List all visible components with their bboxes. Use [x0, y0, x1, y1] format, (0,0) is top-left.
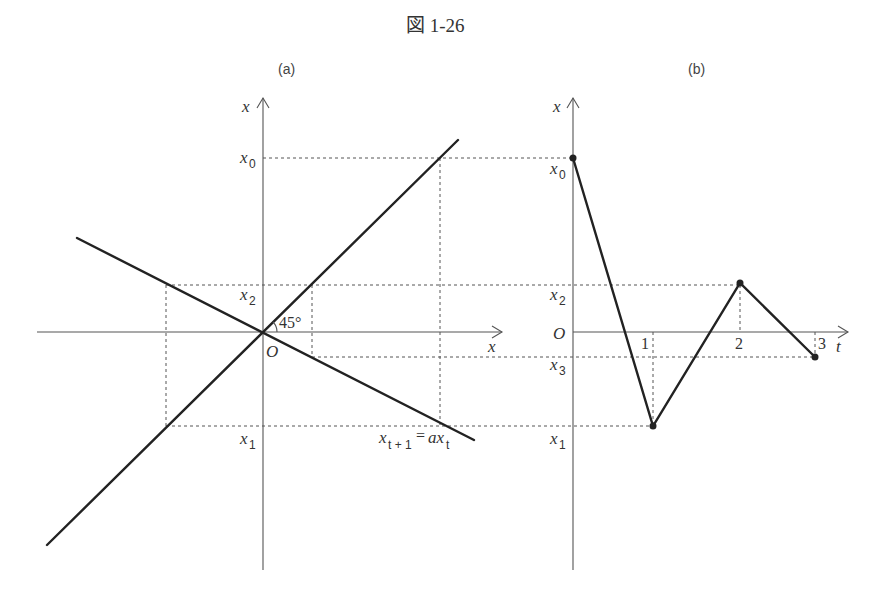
panel-b-time-axis-label: t: [836, 337, 842, 356]
point-x3: [812, 354, 819, 361]
svg-text:1: 1: [249, 438, 256, 452]
panel-b: (b) x t O 1 2 3 x 0 x 2 x 3: [549, 61, 848, 570]
svg-text:x: x: [549, 285, 558, 304]
angle-arc: [273, 322, 277, 332]
svg-text:x: x: [239, 148, 248, 167]
point-x0: [570, 155, 577, 162]
map-line-label: x t + 1 = ax t: [378, 427, 450, 452]
figure-canvas: 図 1-26 (a) x x O 45° x 0: [0, 0, 881, 609]
label-x2-b: x 2: [549, 285, 566, 308]
svg-text:t + 1: t + 1: [388, 438, 412, 452]
angle-label: 45°: [279, 314, 301, 331]
forty-five-degree-line: [47, 140, 458, 545]
map-line: [77, 238, 474, 440]
label-x1-a: x 1: [239, 429, 256, 452]
panel-a-horizontal-axis-label: x: [487, 337, 496, 356]
t-tick-3: 3: [818, 335, 826, 352]
panel-a-origin-label: O: [266, 342, 278, 361]
svg-text:x: x: [549, 355, 558, 374]
svg-text:2: 2: [559, 294, 566, 308]
svg-text:0: 0: [559, 168, 566, 182]
figure-title: 図 1-26: [406, 15, 465, 36]
svg-text:1: 1: [559, 438, 566, 452]
point-x2: [737, 280, 744, 287]
svg-text:=: =: [412, 427, 429, 444]
svg-text:x: x: [239, 429, 248, 448]
panel-b-vertical-axis-label: x: [552, 97, 561, 116]
label-x0-b: x 0: [549, 159, 566, 182]
svg-text:t: t: [446, 438, 450, 452]
svg-text:x: x: [239, 285, 248, 304]
svg-text:x: x: [549, 429, 558, 448]
panel-a-label: (a): [278, 61, 295, 77]
svg-text:x: x: [378, 428, 387, 447]
svg-text:3: 3: [559, 364, 566, 378]
label-x1-b: x 1: [549, 429, 566, 452]
panel-b-label: (b): [688, 61, 705, 77]
t-tick-1: 1: [641, 335, 649, 352]
panel-a: (a) x x O 45° x 0 x: [37, 61, 815, 570]
time-path: [573, 158, 815, 426]
panel-a-vertical-axis-label: x: [241, 97, 250, 116]
label-x3-b: x 3: [549, 355, 566, 378]
point-x1: [650, 423, 657, 430]
svg-text:ax: ax: [428, 428, 445, 447]
svg-text:0: 0: [249, 157, 256, 171]
label-x0-a: x 0: [239, 148, 256, 171]
panel-b-origin-label: O: [553, 324, 565, 343]
svg-text:x: x: [549, 159, 558, 178]
label-x2-a: x 2: [239, 285, 256, 308]
t-tick-2: 2: [735, 335, 743, 352]
svg-text:2: 2: [249, 294, 256, 308]
